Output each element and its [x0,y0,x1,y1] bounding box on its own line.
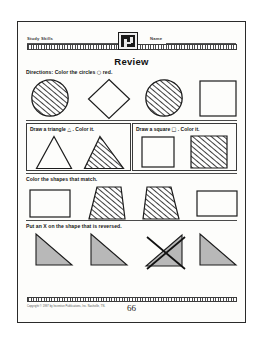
draw-triangle-box[interactable]: Draw a triangle △ . Color it. [26,123,131,171]
shape-diamond-empty[interactable] [87,78,131,120]
directions-circles: Directions: Color the circles ○ red. [26,69,237,75]
square-glyph-icon: □ [172,126,177,132]
worksheet-content: Study Skills Name Review Directions: Col… [26,29,237,316]
section-divider-2 [26,173,237,174]
page-number: 66 [27,303,236,313]
shape-circle-hatched-2[interactable] [144,78,184,118]
triangle-glyph-icon: △ [67,126,71,132]
shape-rectangle-empty-1[interactable] [29,189,71,218]
directions-match: Color the shapes that match. [26,176,237,182]
shape-square-hatched[interactable] [190,135,228,169]
directions-tail: red. [103,69,113,75]
directions-reversed: Put an X on the shape that is reversed. [26,223,237,229]
draw-triangle-label: Draw a triangle △ . Color it. [30,126,94,132]
shape-row-reversed [26,233,237,269]
directions-text: Color the circles [55,69,96,75]
shape-right-triangle-3-marked[interactable] [144,233,188,271]
circle-glyph-icon: ○ [97,69,102,75]
section-divider-1 [26,120,237,121]
shape-right-triangle-1[interactable] [34,233,74,267]
page-title: Review [26,56,237,67]
shape-row-circles [26,78,237,120]
shape-row-match [26,186,237,220]
shape-right-triangle-4[interactable] [198,233,238,267]
draw-triangle-label-b: . Color it. [73,126,95,132]
draw-square-box[interactable]: Draw a square □ . Color it. [132,123,237,171]
directions-lead: Directions: [26,69,53,75]
draw-square-label: Draw a square □ . Color it. [136,126,199,132]
shape-trapezoid-hatched-1[interactable] [88,186,126,220]
draw-square-label-a: Draw a square [136,126,170,132]
worksheet-page: Study Skills Name Review Directions: Col… [17,21,246,323]
shape-rectangle-empty-2[interactable] [196,190,238,217]
draw-shape-boxes: Draw a triangle △ . Color it. [26,123,237,171]
shape-triangle-empty[interactable] [35,135,73,170]
draw-triangle-label-a: Draw a triangle [30,126,66,132]
name-label: Name [150,36,162,41]
worksheet-footer: Copyright © 1997 by Incentive Publicatio… [27,297,236,316]
shape-square-empty-1[interactable] [199,80,237,117]
subject-label: Study Skills [27,36,53,41]
shape-circle-hatched-1[interactable] [30,78,70,118]
draw-square-label-b: . Color it. [178,126,200,132]
worksheet-header: Study Skills Name [26,29,237,55]
shape-right-triangle-2[interactable] [89,233,129,267]
shape-square-empty-2[interactable] [141,136,175,168]
book-badge-icon [118,32,138,50]
shape-triangle-hatched[interactable] [83,135,125,170]
shape-trapezoid-hatched-2[interactable] [142,186,180,220]
section-divider-3 [26,220,237,221]
